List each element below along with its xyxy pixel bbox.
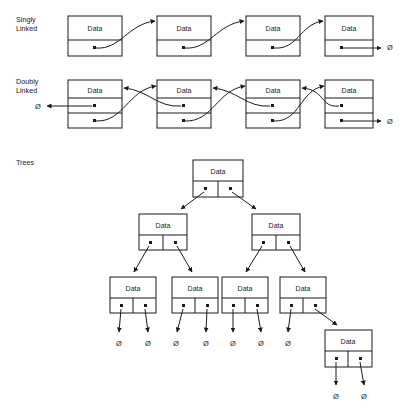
singly-node: Data [246,16,300,56]
pointer-dot [271,46,274,49]
node-data-label: Data [126,285,141,292]
right-pointer-dot [229,187,232,190]
null-terminator-label: Ø [35,102,41,111]
next-pointer-dot [340,119,343,122]
diagram-root: Singly Linked Data Data Data [0,0,405,410]
section-trees: Trees Data Data [16,158,372,401]
prev-pointer-dot [93,104,96,107]
node-data-label: Data [341,338,356,345]
null-leaf-label: Ø [203,339,209,348]
right-pointer-dot [256,304,259,307]
null-terminator-label: Ø [387,117,393,126]
right-pointer-dot [144,304,147,307]
null-terminator-label: Ø [387,43,393,52]
prev-pointer-dot [271,104,274,107]
left-pointer-dot [335,357,338,360]
null-leaf-label: Ø [258,339,264,348]
singly-node: Data [157,16,211,56]
node-data-label: Data [342,25,357,32]
tree-node-level3: Data [325,330,372,367]
node-data-label: Data [211,168,226,175]
node-box [325,16,373,56]
node-box [157,16,211,56]
next-pointer-dot [271,119,274,122]
singly-node: Data [68,16,122,56]
node-data-label: Data [177,87,192,94]
prev-pointer-dot [182,104,185,107]
left-pointer-dot [149,241,152,244]
pointer-dot [93,46,96,49]
left-pointer-dot [290,304,293,307]
tree-node-level2-a: Data [110,277,156,313]
left-pointer-dot [262,241,265,244]
node-data-label: Data [266,25,281,32]
singly-linked-label-line1: Singly [16,15,36,24]
trees-label: Trees [16,158,35,167]
node-box [246,16,300,56]
left-pointer-dot [204,187,207,190]
node-data-label: Data [342,87,357,94]
node-data-label: Data [266,87,281,94]
null-leaf-label: Ø [333,392,339,401]
null-leaf-label: Ø [230,339,236,348]
right-pointer-dot [287,241,290,244]
null-leaf-label: Ø [173,339,179,348]
doubly-linked-label-line1: Doubly [16,77,39,86]
section-doubly-linked: Doubly Linked Data Data [16,77,393,128]
right-pointer-dot [206,304,209,307]
singly-linked-label-line2: Linked [16,24,37,33]
right-pointer-dot [174,241,177,244]
node-box [68,16,122,56]
next-pointer-dot [182,119,185,122]
tree-node-level1-left: Data [139,214,187,250]
singly-node: Data [325,16,373,56]
tree-node-level2-b: Data [172,277,218,313]
next-pointer-dot [93,119,96,122]
tree-node-level2-d: Data [280,277,326,313]
tree-node-root: Data [193,160,243,197]
pointer-dot [182,46,185,49]
node-data-label: Data [188,285,203,292]
right-pointer-dot [359,357,362,360]
tree-edge [232,192,256,209]
node-data-label: Data [269,222,284,229]
right-pointer-dot [314,304,317,307]
left-pointer-dot [182,304,185,307]
node-data-label: Data [156,222,171,229]
null-leaf-label: Ø [145,339,151,348]
node-data-label: Data [88,87,103,94]
doubly-node: Data [68,80,122,128]
node-data-label: Data [88,25,103,32]
node-data-label: Data [177,25,192,32]
left-pointer-dot [120,304,123,307]
null-leaf-label: Ø [285,339,291,348]
doubly-linked-label-line2: Linked [16,86,37,95]
section-singly-linked: Singly Linked Data Data Data [16,15,393,56]
data-structures-diagram: Singly Linked Data Data Data [0,0,405,410]
tree-node-level1-right: Data [252,214,300,250]
tree-node-level2-c: Data [222,277,268,313]
left-pointer-dot [232,304,235,307]
null-leaf-label: Ø [116,339,122,348]
pointer-dot [340,46,343,49]
node-data-label: Data [296,285,311,292]
node-data-label: Data [238,285,253,292]
prev-pointer-dot [340,104,343,107]
null-leaf-label: Ø [361,392,367,401]
